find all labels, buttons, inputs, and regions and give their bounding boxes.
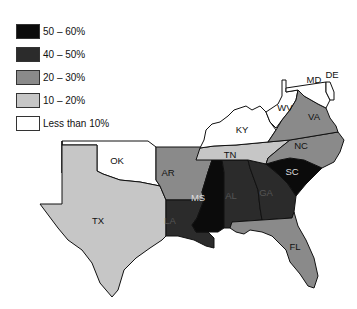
southern-states-map: OK TX AR LA MS AL GA SC FL TN KY NC VA W… [0, 0, 357, 309]
label-tn: TN [224, 149, 237, 160]
label-al: AL [225, 190, 237, 201]
label-md: MD [307, 74, 322, 85]
label-nc: NC [294, 140, 308, 151]
label-de: DE [325, 69, 338, 80]
label-tx: TX [92, 215, 105, 226]
label-sc: SC [285, 166, 298, 177]
label-wv: WV [277, 102, 293, 113]
state-fl [230, 212, 318, 288]
label-la: LA [164, 215, 176, 226]
label-fl: FL [289, 241, 300, 252]
label-va: VA [308, 111, 321, 122]
label-ga: GA [259, 187, 273, 198]
label-ar: AR [161, 167, 174, 178]
label-ky: KY [236, 124, 249, 135]
label-ok: OK [110, 155, 124, 166]
label-ms: MS [191, 192, 205, 203]
